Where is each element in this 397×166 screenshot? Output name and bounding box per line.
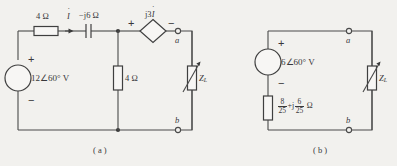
label-source-a: 12∠60° V xyxy=(31,74,69,83)
figure-canvas: 4 Ω I −j6 Ω + j3I − a b + 12∠60° V − 4 Ω… xyxy=(0,0,397,166)
label-source-b: 6∠60° V xyxy=(281,58,315,67)
impedance-unit: Ω xyxy=(307,101,313,110)
label-load-impedance-b: ZL xyxy=(379,74,387,83)
source-a-plus-sign: + xyxy=(28,54,34,65)
terminal-b-marker xyxy=(175,127,180,132)
source-a-minus-sign: − xyxy=(28,95,34,106)
resistor-series-4ohm xyxy=(34,27,58,36)
terminal-a-label: a xyxy=(175,36,179,45)
label-impedance-thevenin: 8 25 +j 6 25 Ω xyxy=(277,98,313,114)
resistor-shunt-4ohm xyxy=(114,66,123,90)
label-dependent-source: j3I xyxy=(145,10,154,19)
terminal-b-marker-b xyxy=(346,127,351,132)
caption-panel-b: ( b ) xyxy=(313,146,327,155)
voltage-source-a-circle xyxy=(5,65,31,91)
fraction-real: 8 25 xyxy=(278,98,288,114)
panel-b-schematic xyxy=(197,0,397,166)
source-b-minus-sign: − xyxy=(278,78,284,89)
circuit-panel-a: 4 Ω I −j6 Ω + j3I − a b + 12∠60° V − 4 Ω… xyxy=(0,0,200,166)
source-b-plus-sign: + xyxy=(278,38,284,49)
voltage-source-b-circle xyxy=(255,49,281,75)
fraction-imag: 6 25 xyxy=(295,98,305,114)
impedance-operator: +j xyxy=(288,101,295,110)
label-resistor-shunt: 4 Ω xyxy=(125,74,138,83)
terminal-b-label: b xyxy=(175,116,179,125)
label-capacitor: −j6 Ω xyxy=(79,11,99,20)
label-current-i: I xyxy=(67,12,70,21)
terminal-a-marker xyxy=(175,28,180,33)
terminal-b-label-b: b xyxy=(346,116,350,125)
impedance-thevenin-body xyxy=(264,96,273,120)
label-resistor-series: 4 Ω xyxy=(36,12,49,21)
dependent-source-minus-sign: − xyxy=(168,18,174,29)
terminal-a-label-b: a xyxy=(346,36,350,45)
dependent-source-plus-sign: + xyxy=(128,18,134,29)
terminal-a-marker-b xyxy=(346,28,351,33)
dependent-source-diamond xyxy=(140,20,166,43)
caption-panel-a: ( a ) xyxy=(93,146,107,155)
circuit-panel-b: + 6∠60° V − a b 8 25 +j 6 25 Ω ZL ( b ) xyxy=(197,0,397,166)
current-arrow-head xyxy=(69,29,74,34)
